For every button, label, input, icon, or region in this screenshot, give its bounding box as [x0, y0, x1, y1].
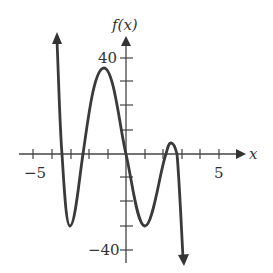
function-graph: f(x) x 40 −40 −5 5 [0, 0, 273, 273]
function-curve [57, 40, 183, 258]
x-axis-label: x [249, 145, 258, 163]
y-tick-label-40: 40 [98, 49, 117, 67]
y-tick-label-neg40: −40 [88, 241, 120, 259]
curve-down-arrow-icon [178, 254, 189, 266]
y-axis-label: f(x) [111, 16, 138, 34]
x-tick-label-5: 5 [214, 164, 224, 182]
y-axis [120, 36, 133, 263]
x-tick-label-neg5: −5 [24, 164, 46, 182]
y-axis-arrow-icon [121, 36, 131, 46]
x-axis [19, 149, 246, 159]
curve-up-arrow-icon [52, 32, 62, 44]
x-axis-arrow-icon [236, 149, 246, 159]
